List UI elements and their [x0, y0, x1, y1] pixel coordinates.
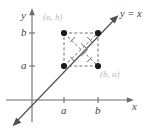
dashed-cross-diagonals	[64, 33, 98, 66]
diagonal-lower-arrowhead	[13, 118, 22, 126]
x-tick-label-a: a	[61, 105, 67, 116]
coordinate-plane-figure: y x b a a b (a, b) (b, a) y = x	[0, 0, 150, 134]
y-tick-label-a: a	[21, 60, 27, 71]
x-tick-label-b: b	[95, 105, 101, 116]
point-a-a-dot	[61, 63, 67, 69]
right-angle-marker	[81, 43, 88, 56]
y-tick-label-b: b	[21, 27, 27, 38]
point-label-a-b: (a, b)	[43, 13, 63, 22]
x-axis-label: x	[132, 101, 137, 112]
point-a-b-dot	[61, 30, 67, 36]
y-axis-label: y	[21, 10, 26, 21]
point-label-b-a: (b, a)	[100, 70, 120, 79]
point-b-b-dot	[95, 30, 101, 36]
x-axis	[6, 97, 134, 103]
line-equation-label: y = x	[120, 9, 142, 20]
y-axis-arrowhead	[29, 8, 35, 15]
